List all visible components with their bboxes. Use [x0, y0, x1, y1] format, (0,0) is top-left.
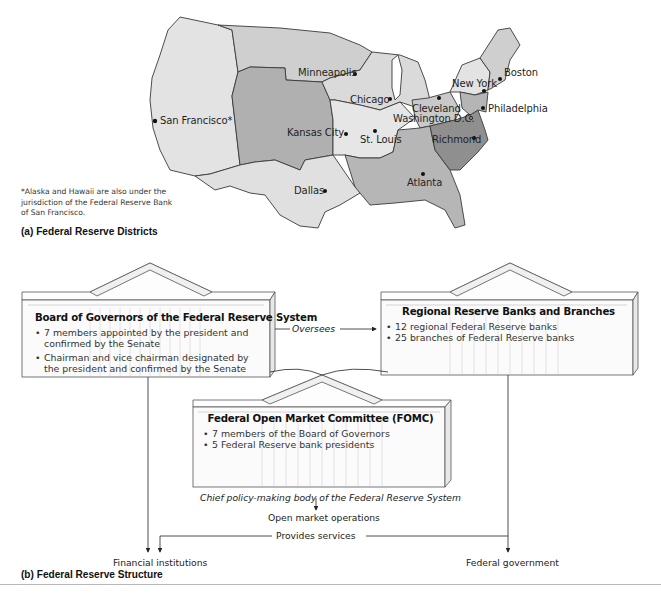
federal-government-label: Federal government	[466, 557, 559, 568]
district-san-francisco	[150, 17, 240, 176]
oversees-label: Oversees	[292, 323, 335, 334]
city-label-chicago: Chicago	[350, 94, 390, 105]
district-philadelphia	[460, 92, 488, 115]
city-label-boston: Boston	[504, 67, 538, 78]
city-label-atlanta: Atlanta	[407, 177, 442, 188]
city-label-dallas: Dallas	[294, 185, 324, 196]
city-label-washington-dc: Washington D.C.	[393, 113, 474, 124]
board-title: Board of Governors of the Federal Reserv…	[35, 312, 265, 323]
regional-bullet-2: 25 branches of Federal Reserve banks	[386, 332, 631, 343]
open-market-operations-label: Open market operations	[268, 512, 380, 523]
district-kansas-city	[232, 67, 333, 170]
fomc-subtitle: Chief policy-making body of the Federal …	[200, 492, 461, 503]
city-label-philadelphia: Philadelphia	[488, 103, 548, 114]
map-caption: (a) Federal Reserve Districts	[21, 225, 158, 237]
city-label-richmond: Richmond	[432, 134, 481, 145]
city-label-new-york: New York	[452, 78, 497, 89]
city-label-kansas-city: Kansas City	[287, 127, 344, 138]
map-footnote: *Alaska and Hawaii are also under the ju…	[21, 187, 181, 219]
city-label-minneapolis: Minneapolis	[298, 67, 357, 78]
fomc-bullet-1: 7 members of the Board of Governors	[203, 428, 438, 439]
federal-reserve-districts-map: San Francisco* Minneapolis Kansas City D…	[0, 0, 661, 240]
regional-title: Regional Reserve Banks and Branches	[386, 306, 631, 317]
fomc-bullet-2: 5 Federal Reserve bank presidents	[203, 439, 438, 450]
board-of-governors-box: Board of Governors of the Federal Reserv…	[35, 312, 265, 374]
structure-caption: (b) Federal Reserve Structure	[21, 568, 163, 580]
board-bullet-2: Chairman and vice chairman designated by…	[35, 352, 265, 374]
regional-banks-box: Regional Reserve Banks and Branches 12 r…	[386, 301, 631, 343]
city-label-san-francisco: San Francisco*	[160, 115, 232, 126]
regional-bullet-1: 12 regional Federal Reserve banks	[386, 321, 631, 332]
fomc-title: Federal Open Market Committee (FOMC)	[203, 413, 438, 424]
board-bullet-1: 7 members appointed by the president and…	[35, 327, 265, 349]
provides-services-label: Provides services	[276, 530, 355, 541]
fomc-box: Federal Open Market Committee (FOMC) 7 m…	[203, 413, 438, 450]
bottom-divider	[0, 584, 661, 585]
city-label-st-louis: St. Louis	[360, 134, 402, 145]
financial-institutions-label: Financial institutions	[113, 557, 207, 568]
